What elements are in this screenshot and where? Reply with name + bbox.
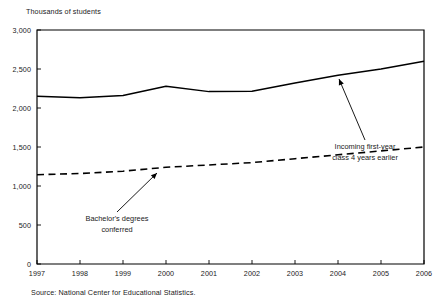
annotation-label-incoming-class: Incoming first-year class 4 years earlie… <box>313 142 417 163</box>
annotation-bachelors-line1: Bachelor's degrees <box>65 214 169 225</box>
annotation-incoming-line1: Incoming first-year <box>313 142 417 153</box>
chart-figure: Thousands of students 3,000 2,500 2,000 … <box>0 0 443 307</box>
annotation-arrow-bachelors-degrees <box>117 173 157 212</box>
series-line-incoming-class <box>37 61 424 98</box>
annotation-arrow-incoming-class <box>339 79 365 140</box>
annotation-label-bachelors-degrees: Bachelor's degrees conferred <box>65 214 169 235</box>
annotation-bachelors-line2: conferred <box>65 225 169 236</box>
source-note: Source: National Center for Educational … <box>31 288 196 297</box>
annotation-incoming-line2: class 4 years earlier <box>313 153 417 164</box>
